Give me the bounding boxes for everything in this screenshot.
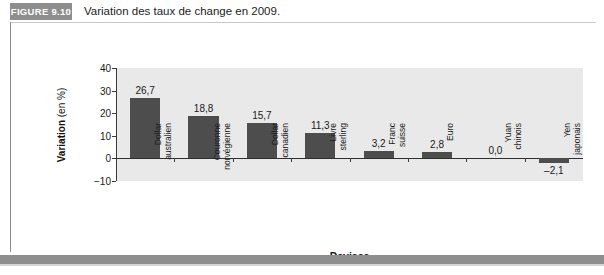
bar-value-label: –2,1 bbox=[544, 165, 563, 176]
bar-value-label: 15,7 bbox=[252, 110, 271, 121]
x-category-label-line: Euro bbox=[446, 123, 456, 185]
x-category-label-line: Couronne bbox=[213, 123, 223, 185]
y-tick-label: −10 bbox=[94, 176, 111, 187]
y-tick-mark bbox=[112, 113, 116, 114]
x-category-label-line: norvégienne bbox=[222, 123, 232, 185]
figure-header: FIGURE 9.10 Variation des taux de change… bbox=[0, 0, 604, 22]
y-tick-label: 0 bbox=[105, 153, 111, 164]
y-tick-mark bbox=[112, 181, 116, 182]
x-category-label-line: chinois bbox=[514, 123, 524, 185]
figure-caption: Variation des taux de change en 2009. bbox=[84, 3, 280, 19]
x-category-label: Francsuisse bbox=[388, 123, 407, 185]
x-category-label: Yenjaponais bbox=[563, 123, 582, 185]
bar-value-label: 26,7 bbox=[135, 85, 154, 96]
bar-value-label: 11,3 bbox=[311, 120, 330, 131]
y-tick-label: 30 bbox=[100, 85, 111, 96]
y-tick-label: 40 bbox=[100, 63, 111, 74]
y-axis-title-unit: (en %) bbox=[56, 88, 67, 120]
y-axis-title: Variation (en %) bbox=[55, 69, 69, 181]
figure-frame: FIGURE 9.10 Variation des taux de change… bbox=[0, 0, 604, 268]
figure-number-badge: FIGURE 9.10 bbox=[10, 3, 72, 20]
bar-value-label: 18,8 bbox=[194, 103, 213, 114]
x-tick-mark bbox=[291, 158, 292, 162]
x-category-label: Yuanchinois bbox=[504, 123, 523, 185]
x-tick-mark bbox=[350, 158, 351, 162]
y-tick-label: 20 bbox=[100, 108, 111, 119]
x-category-label: Euro bbox=[446, 123, 456, 185]
y-tick-mark bbox=[112, 136, 116, 137]
x-category-label-line: sterling bbox=[339, 123, 349, 185]
bar-value-label: 0,0 bbox=[488, 145, 502, 156]
page-bottom-band bbox=[0, 255, 604, 264]
x-tick-mark bbox=[466, 158, 467, 162]
x-category-label: Dollarcanadien bbox=[271, 123, 290, 185]
x-category-label: Dollaraustralien bbox=[154, 123, 173, 185]
x-tick-mark bbox=[525, 158, 526, 162]
chart-region: Variation (en %) 403020100−10 26,718,815… bbox=[11, 23, 596, 251]
x-category-label: Livresterling bbox=[329, 123, 348, 185]
x-tick-mark bbox=[408, 158, 409, 162]
x-category-label-line: canadien bbox=[280, 123, 290, 185]
x-tick-mark bbox=[174, 158, 175, 162]
x-category-label-line: suisse bbox=[397, 123, 407, 185]
x-category-label-line: Franc bbox=[388, 123, 398, 185]
x-category-label-line: Yen bbox=[563, 123, 573, 185]
page-bottom-band-shadow bbox=[0, 264, 604, 266]
x-category-label-line: japonais bbox=[572, 123, 582, 185]
y-tick-mark bbox=[112, 68, 116, 69]
x-category-label: Couronnenorvégienne bbox=[213, 123, 232, 185]
y-tick-label: 10 bbox=[100, 130, 111, 141]
y-tick-mark bbox=[112, 91, 116, 92]
x-category-label-line: Dollar bbox=[271, 123, 281, 185]
bar-value-label: 3,2 bbox=[372, 138, 386, 149]
y-axis-line bbox=[116, 68, 117, 181]
y-axis-title-main: Variation bbox=[56, 120, 67, 162]
x-tick-mark bbox=[233, 158, 234, 162]
x-category-label-line: australien bbox=[164, 123, 174, 185]
bar-value-label: 2,8 bbox=[430, 139, 444, 150]
